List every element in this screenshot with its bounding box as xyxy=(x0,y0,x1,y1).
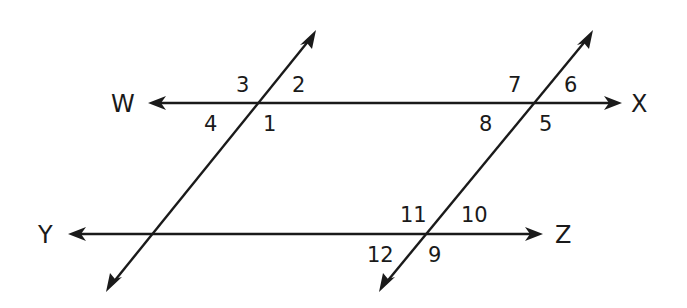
angle-label-7: 7 xyxy=(508,73,521,97)
angle-label-11: 11 xyxy=(400,203,427,227)
point-label-x: X xyxy=(631,90,647,118)
angle-label-9: 9 xyxy=(428,243,441,267)
line-yz xyxy=(68,227,543,241)
line-wx xyxy=(148,96,622,110)
angle-label-6: 6 xyxy=(564,73,577,97)
angle-label-4: 4 xyxy=(204,112,217,136)
left-transversal xyxy=(106,30,316,292)
point-label-w: W xyxy=(111,90,135,118)
angle-label-1: 1 xyxy=(263,112,276,136)
geometry-diagram: W X Y Z 3 2 4 1 7 6 8 5 11 10 12 9 xyxy=(0,0,687,308)
arrowhead-right-transversal-top-icon xyxy=(577,30,593,49)
right-transversal xyxy=(379,30,593,292)
point-label-z: Z xyxy=(555,221,571,249)
angle-label-10: 10 xyxy=(461,203,488,227)
point-label-y: Y xyxy=(37,221,53,249)
angle-label-2: 2 xyxy=(292,73,305,97)
angle-label-5: 5 xyxy=(539,112,552,136)
angle-label-12: 12 xyxy=(367,243,394,267)
angle-label-3: 3 xyxy=(236,73,249,97)
angle-label-8: 8 xyxy=(479,112,492,136)
arrowhead-left-transversal-top-icon xyxy=(300,30,316,49)
